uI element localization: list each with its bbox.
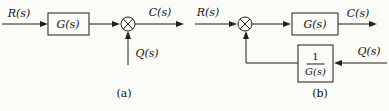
- arrowhead-into-block: [283, 21, 291, 27]
- output-signal-label: C(s): [149, 7, 172, 18]
- arrowhead-output: [176, 21, 184, 27]
- block-label: G(s): [303, 19, 326, 30]
- block-diagram-figure: R(s) G(s) C(s) Q(s) (a) R(s) G(s) C(s) Q…: [0, 0, 389, 111]
- arrowhead-up-into-junction: [243, 31, 249, 39]
- arrowhead-into-junction: [112, 21, 120, 27]
- arrowhead-into-inverse-block: [334, 60, 342, 66]
- arrowhead-output: [369, 21, 377, 27]
- input-signal-label: R(s): [197, 7, 220, 18]
- subfigure-caption: (a): [116, 88, 131, 99]
- output-signal-label: C(s): [347, 8, 370, 19]
- fraction-numerator: 1: [310, 51, 320, 63]
- disturbance-signal-label: Q(s): [135, 48, 158, 59]
- block-label: G(s): [56, 19, 79, 30]
- subfigure-caption: (b): [312, 88, 328, 99]
- arrowhead-into-junction: [229, 21, 237, 27]
- inverse-block-label: 1 G(s): [304, 51, 327, 76]
- input-signal-label: R(s): [8, 8, 31, 19]
- disturbance-signal-label: Q(s): [357, 46, 380, 57]
- arrowhead-into-block: [40, 21, 48, 27]
- fraction-denominator: G(s): [304, 64, 327, 76]
- arrowhead-up-into-junction: [125, 31, 131, 39]
